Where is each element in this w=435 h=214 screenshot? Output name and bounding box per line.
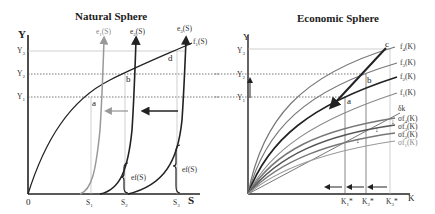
s2-tick: S2 bbox=[121, 198, 128, 208]
y3-tick-econ: Y3 bbox=[237, 46, 245, 56]
s3-tick: S3 bbox=[173, 198, 180, 208]
point-b-econ: b bbox=[367, 75, 372, 85]
y2-tick-econ: Y2 bbox=[237, 70, 245, 80]
k3-tick: K3* bbox=[386, 197, 398, 207]
e1-label: e1(S) bbox=[96, 27, 112, 37]
path-arrow bbox=[333, 48, 386, 105]
f1-label: f1(S) bbox=[193, 37, 208, 47]
s1-tick: S1 bbox=[86, 198, 93, 208]
sf1-label: σf1(K) bbox=[398, 138, 418, 148]
shift-marker-3: ↓ bbox=[356, 136, 360, 145]
f2-label: f2(K) bbox=[400, 72, 416, 82]
y1-tick: Y1 bbox=[17, 92, 25, 102]
x-axis-label: S bbox=[188, 194, 194, 206]
e2-label: e2(S) bbox=[130, 27, 146, 37]
brace-1 bbox=[121, 163, 128, 193]
point-b: b bbox=[126, 74, 131, 84]
point-d: d bbox=[168, 53, 173, 63]
origin-label: 0 bbox=[26, 197, 31, 207]
shift-marker-1: ↓ bbox=[391, 117, 395, 126]
y1-tick-econ: Y1 bbox=[237, 93, 245, 103]
brace-2 bbox=[173, 145, 180, 193]
point-a-econ: a bbox=[347, 96, 351, 106]
point-a: a bbox=[92, 98, 96, 108]
e2-curve bbox=[100, 40, 136, 194]
point-c: c bbox=[385, 39, 389, 49]
ef-label-1: ef(S) bbox=[131, 173, 146, 182]
natural-sphere-panel: Natural Sphere Y S 0 Y3 Y2 Y1 f1(S) e1(S… bbox=[17, 10, 220, 208]
f4-label: f4(K) bbox=[400, 42, 416, 52]
economic-sphere-title: Economic Sphere bbox=[297, 12, 379, 24]
diagram-canvas: Natural Sphere Y S 0 Y3 Y2 Y1 f1(S) e1(S… bbox=[0, 0, 435, 214]
ef-label-2: ef(S) bbox=[182, 165, 197, 174]
y-axis-label: Y bbox=[18, 28, 26, 40]
f1-curve bbox=[28, 43, 192, 194]
natural-sphere-title: Natural Sphere bbox=[75, 10, 147, 22]
y2-tick: Y2 bbox=[17, 69, 25, 79]
x-axis-label-econ: K bbox=[408, 193, 415, 203]
f1k-label: f1(K) bbox=[400, 88, 416, 98]
k2-tick: K2* bbox=[362, 197, 374, 207]
shift-marker-2: ↓ bbox=[375, 125, 379, 134]
e1-curve bbox=[80, 40, 104, 194]
k1-tick: K1* bbox=[341, 197, 353, 207]
economic-sphere-panel: Economic Sphere Y K Y3 Y2 Y1 f4(K) f3(K)… bbox=[215, 12, 418, 207]
delta-k-label: δk bbox=[398, 104, 406, 113]
y3-tick: Y3 bbox=[17, 46, 25, 56]
y-axis-label-econ: Y bbox=[243, 32, 250, 42]
f3-label: f3(K) bbox=[400, 58, 416, 68]
e3-label: e3(S) bbox=[177, 24, 193, 34]
